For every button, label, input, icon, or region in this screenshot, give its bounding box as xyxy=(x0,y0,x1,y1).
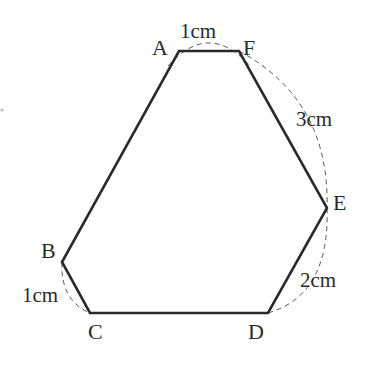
length-label-fe: 3cm xyxy=(296,107,332,131)
vertex-label-d: D xyxy=(248,319,264,344)
arc-af xyxy=(168,43,250,66)
vertex-label-b: B xyxy=(41,238,56,263)
hexagon-outline xyxy=(62,51,327,313)
length-label-bc: 1cm xyxy=(22,283,58,307)
length-label-af: 1cm xyxy=(180,19,216,43)
vertex-label-f: F xyxy=(243,35,255,60)
length-label-ed: 2cm xyxy=(300,268,336,292)
speck-mark xyxy=(1,109,4,112)
hexagon-diagram: A F E D C B 1cm 3cm 2cm 1cm xyxy=(0,0,377,365)
vertex-label-c: C xyxy=(88,319,103,344)
vertex-label-e: E xyxy=(333,190,346,215)
vertex-label-a: A xyxy=(152,35,168,60)
